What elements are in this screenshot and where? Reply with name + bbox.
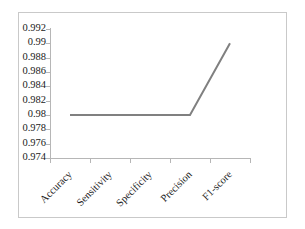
y-axis-tick-mark (46, 129, 50, 130)
y-axis-tick-mark (46, 115, 50, 116)
y-axis-tick-label: 0.992 (8, 23, 46, 33)
y-axis-tick-label: 0.976 (8, 138, 46, 148)
y-axis-tick-mark (46, 144, 50, 145)
y-axis-tick-mark (46, 101, 50, 102)
y-axis-tick-label: 0.982 (8, 95, 46, 105)
y-axis-tick-mark (46, 43, 50, 44)
y-axis-tick-label: 0.974 (8, 152, 46, 162)
y-axis-line (50, 28, 51, 159)
x-axis-tick-mark (130, 159, 131, 163)
x-axis-tick-mark (90, 159, 91, 163)
y-axis-tick-label: 0.984 (8, 80, 46, 90)
x-axis-tick-mark (250, 159, 251, 163)
y-axis-tick-label: 0.99 (8, 37, 46, 47)
y-axis-tick-label: 0.98 (8, 109, 46, 119)
y-axis-tick-label: 0.986 (8, 66, 46, 76)
x-axis-tick-mark (170, 159, 171, 163)
y-axis-tick-mark (46, 72, 50, 73)
x-axis-line (50, 158, 251, 159)
y-axis-tick-mark (46, 58, 50, 59)
x-axis-tick-mark (50, 159, 51, 163)
y-axis-tick-mark (46, 29, 50, 30)
y-axis-tick-mark (46, 86, 50, 87)
x-axis-tick-mark (210, 159, 211, 163)
y-axis-tick-label: 0.978 (8, 123, 46, 133)
y-axis-tick-label: 0.988 (8, 52, 46, 62)
